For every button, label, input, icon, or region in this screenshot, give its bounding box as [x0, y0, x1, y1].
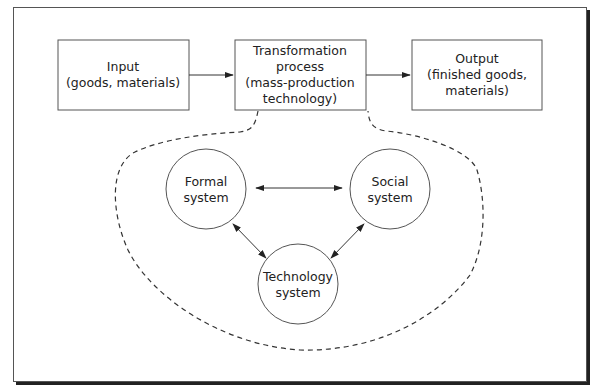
social-line-1: Social — [371, 174, 408, 189]
formal-line-2: system — [183, 190, 228, 205]
process-line-3: (mass-production — [245, 75, 354, 90]
diagram-canvas: Input (goods, materials) Transformation … — [0, 0, 599, 387]
social-line-2: system — [367, 190, 412, 205]
arrow-formal-technology — [233, 224, 266, 258]
input-subtitle: (goods, materials) — [66, 75, 180, 90]
process-line-4: technology) — [263, 91, 337, 106]
output-title: Output — [455, 51, 499, 66]
process-line-1: Transformation — [252, 43, 347, 58]
output-box: Output (finished goods, materials) — [412, 40, 542, 110]
output-line-3: materials) — [445, 83, 509, 98]
technology-line-1: Technology — [262, 269, 334, 284]
input-box: Input (goods, materials) — [58, 40, 189, 110]
process-line-2: process — [276, 59, 324, 74]
technology-system-circle: Technology system — [258, 244, 338, 324]
formal-line-1: Formal — [185, 174, 228, 189]
social-system-circle: Social system — [350, 149, 430, 229]
formal-system-circle: Formal system — [166, 149, 246, 229]
output-line-2: (finished goods, — [427, 67, 527, 82]
technology-line-2: system — [275, 285, 320, 300]
arrow-social-technology — [331, 224, 364, 258]
process-box: Transformation process (mass-production … — [235, 40, 366, 110]
input-title: Input — [107, 59, 139, 74]
